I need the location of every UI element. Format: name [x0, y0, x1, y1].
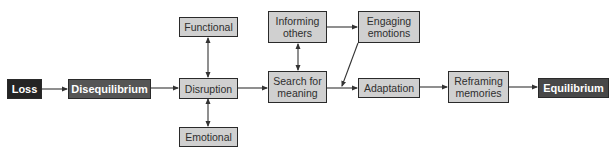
node-reframing-memories-line2: memories [455, 87, 501, 99]
node-disruption-label: Disruption [185, 83, 232, 95]
node-loss-label: Loss [12, 83, 38, 95]
node-equilibrium-label: Equilibrium [543, 82, 604, 94]
node-loss: Loss [7, 79, 42, 99]
node-disruption: Disruption [179, 78, 238, 99]
node-adaptation: Adaptation [358, 78, 420, 98]
node-engaging-emotions: Engaging emotions [358, 11, 420, 43]
node-informing-others-line1: Informing [276, 15, 320, 27]
node-disequilibrium-label: Disequilibrium [71, 83, 147, 95]
node-search-for-meaning: Search for meaning [268, 71, 327, 103]
node-functional-label: Functional [184, 21, 232, 33]
node-emotional-label: Emotional [185, 131, 232, 143]
node-search-for-meaning-line1: Search for [273, 75, 321, 87]
grief-process-diagram: Loss Disequilibrium Functional Disruptio… [0, 0, 616, 154]
node-reframing-memories-line1: Reframing [454, 75, 502, 87]
node-disequilibrium: Disequilibrium [68, 79, 151, 99]
node-reframing-memories: Reframing memories [448, 71, 509, 103]
node-informing-others: Informing others [268, 11, 327, 43]
node-emotional: Emotional [179, 127, 238, 147]
edge-engaging-return [342, 43, 358, 86]
node-functional: Functional [179, 17, 238, 37]
node-adaptation-label: Adaptation [364, 82, 414, 94]
node-engaging-emotions-line2: emotions [368, 27, 411, 39]
node-equilibrium: Equilibrium [538, 78, 609, 98]
node-search-for-meaning-line2: meaning [277, 87, 317, 99]
node-engaging-emotions-line1: Engaging [367, 15, 411, 27]
node-informing-others-line2: others [283, 27, 312, 39]
